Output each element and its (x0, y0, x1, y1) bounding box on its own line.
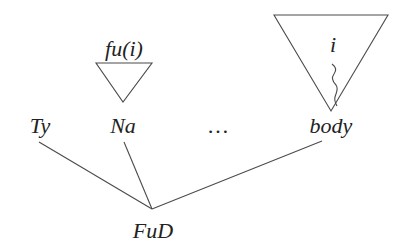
na-subtree-triangle (96, 63, 152, 102)
na-subtree-label: fu(i) (105, 36, 143, 61)
node-fud-root: FuD (132, 218, 173, 243)
squiggle-link (332, 64, 337, 106)
body-subtree-label: i (330, 32, 336, 57)
body-subtree-triangle (274, 15, 388, 111)
edge-ty-fud (39, 142, 152, 209)
edge-body-fud (152, 141, 322, 209)
node-na: Na (109, 113, 136, 138)
edge-na-fud (124, 142, 152, 209)
tree-diagram: fu(i) i Ty Na … body FuD (0, 0, 404, 252)
node-ellipsis: … (207, 113, 229, 138)
node-body: body (310, 113, 353, 138)
node-ty: Ty (30, 113, 51, 138)
